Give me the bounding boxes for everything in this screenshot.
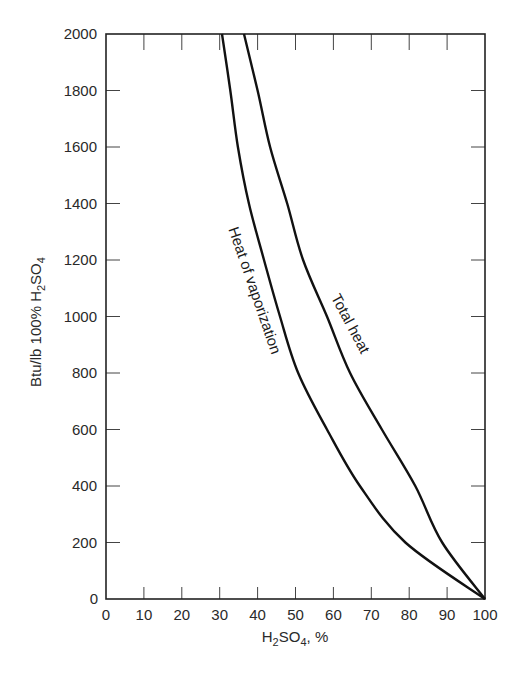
y-tick-label: 1800: [64, 82, 97, 99]
chart: 0102030405060708090100 02004006008001000…: [0, 0, 524, 685]
x-tick-label: 20: [173, 606, 190, 623]
y-tick-label: 1400: [64, 195, 97, 212]
x-tick-label: 0: [102, 606, 110, 623]
y-tick-labels: 0200400600800100012001400160018002000: [64, 25, 98, 607]
y-tick-label: 0: [90, 590, 98, 607]
x-tick-label: 60: [325, 606, 342, 623]
y-tick-label: 1600: [64, 138, 97, 155]
x-tick-label: 100: [472, 606, 497, 623]
x-axis-label: H2SO4, %: [262, 628, 328, 648]
x-tick-label: 90: [439, 606, 456, 623]
x-tick-label: 40: [249, 606, 266, 623]
y-tick-label: 400: [72, 477, 97, 494]
y-tick-label: 800: [72, 364, 97, 381]
y-tick-label: 1200: [64, 251, 97, 268]
y-tick-label: 200: [72, 534, 97, 551]
y-tick-label: 600: [72, 421, 97, 438]
x-tick-label: 30: [211, 606, 228, 623]
x-tick-label: 70: [363, 606, 380, 623]
y-tick-label: 1000: [64, 308, 97, 325]
y-tick-label: 2000: [64, 25, 97, 42]
curve-label-total-heat: Total heat: [328, 291, 374, 357]
y-axis-label: Btu/lb 100% H2SO4: [27, 257, 47, 387]
x-tick-label: 80: [401, 606, 418, 623]
x-tick-label: 10: [136, 606, 153, 623]
x-tick-labels: 0102030405060708090100: [102, 606, 498, 623]
curve-label-heat-of-vaporization: Heat of vaporization: [225, 224, 285, 356]
x-tick-label: 50: [287, 606, 304, 623]
